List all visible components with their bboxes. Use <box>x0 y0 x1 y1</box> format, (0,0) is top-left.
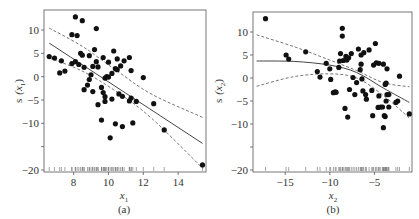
x-tick-label: −15 <box>277 176 295 188</box>
data-point <box>380 104 385 109</box>
data-point <box>386 92 391 97</box>
data-point <box>141 75 146 80</box>
confidence-bands <box>257 35 410 118</box>
data-point <box>90 64 95 69</box>
data-points <box>263 16 412 130</box>
data-point <box>85 83 90 88</box>
data-point <box>120 94 125 99</box>
data-point <box>120 124 125 129</box>
data-point <box>87 77 92 82</box>
y-tick-label: −10 <box>22 117 40 129</box>
data-point <box>383 114 388 119</box>
data-point <box>359 62 364 67</box>
data-point <box>47 54 52 59</box>
x-axis-ticks: 8101214 <box>71 172 184 188</box>
data-point <box>395 98 400 103</box>
data-points <box>47 14 205 167</box>
data-point <box>87 53 92 58</box>
data-point <box>113 121 118 126</box>
data-point <box>95 64 100 69</box>
data-point <box>129 68 134 73</box>
data-point <box>397 74 402 79</box>
y-tick-label: −5 <box>27 94 39 106</box>
data-point <box>349 51 354 56</box>
data-point <box>336 65 341 70</box>
y-axis-ticks: 1050−5−10−20 <box>231 26 253 176</box>
x-tick-label: −5 <box>369 176 381 188</box>
data-point <box>364 97 369 102</box>
x-tick-label: 14 <box>173 176 185 188</box>
data-point <box>384 98 389 103</box>
data-point <box>328 77 333 82</box>
y-tick-label: 0 <box>34 71 40 83</box>
data-point <box>59 58 64 63</box>
data-point <box>315 69 320 74</box>
data-point <box>52 55 57 60</box>
data-point <box>122 58 127 63</box>
data-point <box>381 62 386 67</box>
rug-marks <box>266 167 410 171</box>
x-tick-label: 12 <box>138 176 149 188</box>
data-point <box>381 125 386 130</box>
data-point <box>88 72 93 77</box>
data-point <box>340 26 345 31</box>
data-point <box>350 75 355 80</box>
rug-marks <box>49 167 202 171</box>
data-point <box>376 93 381 98</box>
data-point <box>90 89 95 94</box>
data-point <box>101 55 106 60</box>
data-point <box>162 127 167 132</box>
data-point <box>106 60 111 65</box>
data-point <box>109 97 114 102</box>
y-tick-label: −20 <box>22 164 40 176</box>
data-point <box>99 85 104 90</box>
data-point <box>369 88 374 93</box>
y-tick-label: 5 <box>34 47 40 59</box>
data-point <box>76 62 81 67</box>
data-point <box>303 49 308 54</box>
data-point <box>358 67 363 72</box>
panel-a: 1050−5−10−20 8101214 s(x1) x1 (a) <box>12 10 206 216</box>
data-point <box>115 56 120 61</box>
y-tick-label: 10 <box>28 24 40 36</box>
y-tick-label: 0 <box>243 72 249 84</box>
y-axis-title: s(x2) <box>212 79 227 103</box>
figure: 1050−5−10−20 8101214 s(x1) x1 (a) 1050−5… <box>0 0 419 219</box>
data-point <box>82 87 87 92</box>
panel-caption: (b) <box>327 203 340 216</box>
data-point <box>99 118 104 123</box>
data-point <box>361 50 366 55</box>
data-point <box>324 61 329 66</box>
data-point <box>109 71 114 76</box>
data-point <box>102 99 107 104</box>
data-point <box>359 76 364 81</box>
data-point <box>263 16 268 21</box>
data-point <box>327 66 332 71</box>
data-point <box>352 92 357 97</box>
data-point <box>80 53 85 58</box>
data-point <box>95 102 100 107</box>
data-point <box>200 162 205 167</box>
x-axis-title: x2 <box>328 189 338 204</box>
data-point <box>345 115 350 120</box>
data-point <box>134 99 139 104</box>
panel-b: 1050−5−10−20 −15−10−5 s(x2) x2 (b) <box>212 12 412 216</box>
data-point <box>129 96 134 101</box>
y-axis-title: s(x1) <box>12 79 27 103</box>
confidence-bands <box>49 28 202 168</box>
data-point <box>376 61 381 66</box>
y-tick-label: −20 <box>231 164 249 176</box>
data-point <box>342 106 347 111</box>
data-point <box>384 81 389 86</box>
smooth-fit-line <box>49 43 202 143</box>
x-axis-title: x1 <box>119 189 129 204</box>
data-point <box>108 135 113 140</box>
data-point <box>317 75 322 80</box>
y-tick-label: −10 <box>231 118 249 130</box>
data-point <box>334 90 339 95</box>
data-point <box>151 101 156 106</box>
x-tick-label: 10 <box>103 176 115 188</box>
y-tick-label: −5 <box>236 95 248 107</box>
data-point <box>102 94 107 99</box>
data-point <box>118 63 123 68</box>
